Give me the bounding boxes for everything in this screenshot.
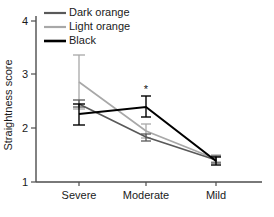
legend-item-dark-orange[interactable]: Dark orange [44,6,130,18]
legend-item-light-orange[interactable]: Light orange [44,20,130,32]
x-tick-label-moderate: Moderate [123,189,169,201]
legend-label-light-orange: Light orange [69,20,130,32]
legend-label-black: Black [69,34,96,46]
chart-legend: Dark orange Light orange Black [44,6,130,46]
y-tick-label-4: 4 [22,15,28,27]
legend-label-dark-orange: Dark orange [69,6,130,18]
x-tick-label-mild: Mild [206,189,226,201]
y-tick-label-1: 1 [22,176,28,188]
significance-asterisk: * [144,83,149,95]
y-axis-ticks: 4 3 2 1 [22,15,36,188]
x-axis-ticks: Severe Moderate Mild [62,182,227,201]
y-tick-label-2: 2 [22,122,28,134]
line-chart-plot: 4 3 2 1 Straightness score Severe Modera… [0,0,274,217]
y-axis-title: Straightness score [2,59,14,150]
y-tick-label-3: 3 [22,68,28,80]
x-tick-label-severe: Severe [62,189,97,201]
legend-item-black[interactable]: Black [44,34,96,46]
chart-figure: 4 3 2 1 Straightness score Severe Modera… [0,0,274,217]
